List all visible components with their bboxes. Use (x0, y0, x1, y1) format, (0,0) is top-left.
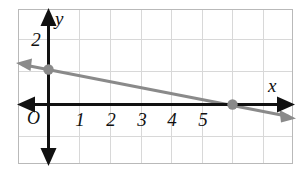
x-tick-2: 2 (103, 110, 119, 129)
y-axis-label: y (55, 9, 63, 28)
x-tick-5: 5 (195, 110, 211, 129)
x-intercept-point (227, 99, 237, 109)
y-tick-2: 2 (28, 30, 44, 49)
origin-label: O (27, 109, 40, 127)
x-tick-1: 1 (72, 110, 88, 129)
graph-figure: y x O 2 1 2 3 4 5 (0, 0, 301, 171)
plot-background (18, 9, 293, 164)
y-intercept-point (43, 64, 53, 74)
x-axis-label: x (268, 76, 276, 95)
x-tick-3: 3 (134, 110, 150, 129)
coordinate-plane-svg (0, 0, 301, 171)
x-tick-4: 4 (164, 110, 180, 129)
